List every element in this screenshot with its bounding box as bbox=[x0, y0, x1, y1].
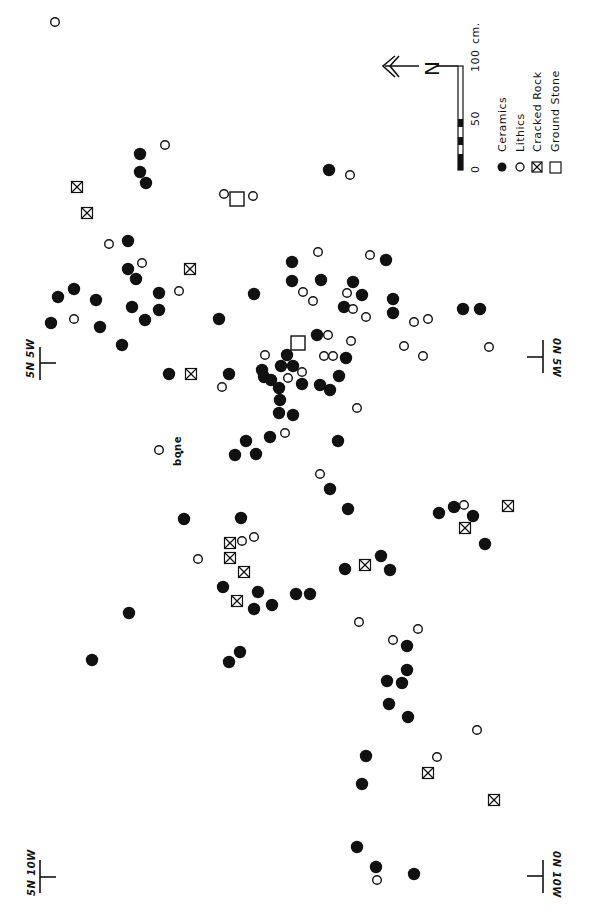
lithic-point bbox=[314, 248, 323, 257]
ceramic-point bbox=[140, 177, 152, 189]
ceramic-point bbox=[234, 646, 246, 658]
ceramic-point bbox=[315, 274, 327, 286]
ceramic-point bbox=[213, 313, 225, 325]
ceramic-point bbox=[360, 750, 372, 762]
ceramic-point bbox=[296, 378, 308, 390]
ground-stone-point bbox=[291, 336, 305, 350]
ceramic-point bbox=[153, 304, 165, 316]
ceramic-point bbox=[217, 581, 229, 593]
scale-bar bbox=[458, 66, 463, 170]
ceramic-point bbox=[229, 449, 241, 461]
legend-label-lithics: Lithics bbox=[514, 113, 527, 152]
lithic-point bbox=[389, 636, 398, 645]
ceramic-point bbox=[290, 588, 302, 600]
ceramic-point bbox=[332, 435, 344, 447]
ceramic-point bbox=[287, 409, 299, 421]
ceramic-point bbox=[235, 512, 247, 524]
ceramic-point bbox=[275, 360, 287, 372]
cracked-rock-point bbox=[232, 596, 243, 607]
scale-tick-100: 100 bbox=[469, 50, 482, 73]
legend-label-ceramics: Ceramics bbox=[496, 97, 509, 152]
lithic-point bbox=[261, 351, 270, 360]
lithic-point bbox=[299, 288, 308, 297]
lithic-point bbox=[324, 331, 333, 340]
ceramic-point bbox=[356, 289, 368, 301]
lithic-point bbox=[433, 753, 442, 762]
north-label: N bbox=[420, 61, 444, 76]
ceramic-point bbox=[351, 841, 363, 853]
ceramic-point bbox=[223, 368, 235, 380]
ceramic-point bbox=[122, 263, 134, 275]
ceramic-point bbox=[223, 656, 235, 668]
ceramic-point bbox=[116, 339, 128, 351]
ceramic-point bbox=[448, 501, 460, 513]
lithic-point bbox=[70, 315, 79, 324]
lithic-point bbox=[346, 171, 355, 180]
lithic-point bbox=[218, 383, 227, 392]
ceramic-point bbox=[380, 254, 392, 266]
lithic-point bbox=[175, 287, 184, 296]
ceramic-point bbox=[134, 148, 146, 160]
ceramic-point bbox=[122, 235, 134, 247]
ceramic-point bbox=[123, 607, 135, 619]
ceramic-point bbox=[304, 588, 316, 600]
legend-ground-stone-icon bbox=[550, 162, 561, 173]
lithic-point bbox=[250, 533, 259, 542]
ceramic-point bbox=[342, 503, 354, 515]
ceramic-point bbox=[383, 698, 395, 710]
scale-unit: cm. bbox=[469, 22, 482, 44]
scale-tick-0: 0 bbox=[469, 166, 482, 174]
cracked-rock-point bbox=[239, 567, 250, 578]
legend-label-cracked-rock: Cracked Rock bbox=[531, 71, 544, 152]
ceramic-point bbox=[339, 563, 351, 575]
ceramic-point bbox=[240, 435, 252, 447]
lithic-point bbox=[249, 192, 258, 201]
lithic-point bbox=[298, 368, 307, 377]
ceramic-point bbox=[387, 307, 399, 319]
ground-stone-point bbox=[230, 192, 244, 206]
ceramic-point bbox=[384, 564, 396, 576]
ceramic-point bbox=[264, 431, 276, 443]
lithic-point bbox=[161, 141, 170, 150]
ceramic-point bbox=[323, 164, 335, 176]
ceramic-point bbox=[274, 394, 286, 406]
lithic-point bbox=[105, 240, 114, 249]
ceramic-point bbox=[401, 640, 413, 652]
lithic-point bbox=[320, 352, 329, 361]
ceramic-point bbox=[126, 301, 138, 313]
lithic-point bbox=[194, 555, 203, 564]
grid-label-0n5w: 0N 5W bbox=[551, 338, 562, 377]
lithic-point bbox=[410, 318, 419, 327]
lithic-point bbox=[460, 501, 469, 510]
legend-lithics-icon bbox=[516, 163, 524, 171]
ceramic-point bbox=[178, 513, 190, 525]
ceramic-point bbox=[324, 483, 336, 495]
ceramic-point bbox=[139, 314, 151, 326]
cracked-rock-point bbox=[503, 501, 514, 512]
ceramic-point bbox=[266, 599, 278, 611]
lithic-point bbox=[373, 876, 382, 885]
ceramic-point bbox=[375, 550, 387, 562]
ceramic-point bbox=[252, 586, 264, 598]
cracked-rock-point bbox=[82, 208, 93, 219]
ceramic-point bbox=[401, 664, 413, 676]
legend-ceramics-icon bbox=[498, 163, 507, 172]
ceramic-point bbox=[467, 510, 479, 522]
ceramic-point bbox=[248, 288, 260, 300]
lithic-point bbox=[316, 470, 325, 479]
lithic-point bbox=[329, 352, 338, 361]
ceramic-point bbox=[248, 603, 260, 615]
ceramic-point bbox=[90, 294, 102, 306]
ceramic-point bbox=[457, 303, 469, 315]
ceramic-point bbox=[250, 448, 262, 460]
grid-label-0n10w: 0N 10W bbox=[551, 851, 562, 898]
ceramic-point bbox=[338, 301, 350, 313]
ceramic-point bbox=[474, 303, 486, 315]
legend-cracked-rock-icon bbox=[532, 162, 542, 172]
lithic-point bbox=[362, 313, 371, 322]
lithic-point bbox=[347, 337, 356, 346]
ceramic-point bbox=[340, 352, 352, 364]
lithic-point bbox=[473, 726, 482, 735]
cracked-rock-point bbox=[185, 264, 196, 275]
ceramic-point bbox=[479, 538, 491, 550]
